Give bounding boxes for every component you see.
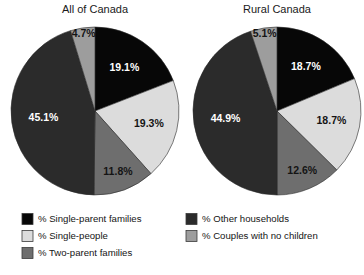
legend-label: % Single-parent families [38,213,142,224]
legend-label: % Two-parent families [38,247,132,258]
pie-slice-label: 11.8% [103,165,133,177]
legend-swatch [186,214,197,225]
legend-item[interactable]: % Single-parent families [22,213,142,224]
legend-label: % Couples with no children [202,230,318,241]
legend-item[interactable]: % Couples with no children [186,230,318,241]
pie-slice-label: 19.3% [134,117,164,129]
legend-swatch [22,231,33,242]
legend-item[interactable]: % Two-parent families [22,247,132,258]
legend-label: % Single-people [38,230,108,241]
legend-label: % Other households [202,213,289,224]
pie-slice-label: 4.7% [72,27,97,39]
chart-title: Rural Canada [243,3,312,15]
legend-item[interactable]: % Other households [186,213,289,224]
legend-swatch [22,248,33,259]
chart-title: All of Canada [62,3,129,15]
legend-swatch [22,214,33,225]
pie-slice-label: 18.7% [317,114,347,126]
pie-slice-label: 5.1% [253,27,278,39]
pie-slice-label: 44.9% [211,112,241,124]
pie-chart-figure: All of Canada19.1%19.3%11.8%45.1%4.7%Rur… [0,0,364,275]
pie-slice-label: 45.1% [29,111,59,123]
pie-slice-label: 12.6% [287,164,317,176]
pie-slice-label: 18.7% [291,60,321,72]
pie-slice-label: 19.1% [110,61,140,73]
legend-swatch [186,231,197,242]
